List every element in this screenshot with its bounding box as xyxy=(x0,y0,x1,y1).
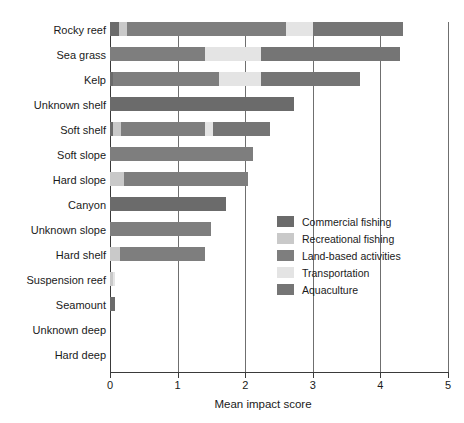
bar-segment xyxy=(219,72,261,86)
bar-segment xyxy=(113,122,121,136)
x-axis-tick xyxy=(380,372,381,378)
x-axis-line xyxy=(110,372,448,373)
bar-row xyxy=(110,172,448,186)
legend-swatch xyxy=(277,233,294,244)
x-axis-tick xyxy=(448,372,449,378)
y-axis-category-label: Unknown slope xyxy=(2,224,106,236)
y-axis-category-labels: Rocky reefSea grassKelpUnknown shelfSoft… xyxy=(0,22,106,372)
bar-segment xyxy=(213,122,270,136)
bar-segment xyxy=(313,22,403,36)
legend-swatch xyxy=(277,250,294,261)
y-axis-category-label: Hard shelf xyxy=(2,249,106,261)
bar-segment xyxy=(286,22,313,36)
y-axis-category-label: Soft shelf xyxy=(2,124,106,136)
legend-item: Recreational fishing xyxy=(277,230,401,247)
y-axis-category-label: Rocky reef xyxy=(2,24,106,36)
bar-segment xyxy=(127,22,286,36)
legend-label: Aquaculture xyxy=(302,284,358,296)
x-axis-tick xyxy=(178,372,179,378)
bar-segment xyxy=(121,122,206,136)
x-axis-tick xyxy=(110,372,111,378)
bar-segment xyxy=(110,22,119,36)
bar-row xyxy=(110,147,448,161)
legend-swatch xyxy=(277,216,294,227)
y-axis-category-label: Hard slope xyxy=(2,174,106,186)
bar-row xyxy=(110,97,448,111)
bar-segment xyxy=(110,222,211,236)
bar-segment xyxy=(110,247,120,261)
y-axis-category-label: Soft slope xyxy=(2,149,106,161)
y-axis-category-label: Suspension reef xyxy=(2,274,106,286)
x-axis-tick-label: 1 xyxy=(168,379,188,392)
bar-segment xyxy=(205,47,262,61)
bar-segment xyxy=(110,197,226,211)
x-axis-tick xyxy=(245,372,246,378)
legend-swatch xyxy=(277,267,294,278)
y-axis-category-label: Sea grass xyxy=(2,49,106,61)
x-axis-title: Mean impact score xyxy=(0,398,464,410)
bar-segment xyxy=(119,22,127,36)
legend: Commercial fishingRecreational fishingLa… xyxy=(277,213,401,298)
legend-label: Land-based activities xyxy=(302,250,401,262)
bars-container xyxy=(110,22,448,372)
y-axis-category-label: Unknown deep xyxy=(2,324,106,336)
bar-row xyxy=(110,22,448,36)
bar-row xyxy=(110,122,448,136)
bar-row xyxy=(110,47,448,61)
legend-item: Land-based activities xyxy=(277,247,401,264)
bar-segment xyxy=(110,47,205,61)
gridline xyxy=(448,22,449,372)
y-axis-category-label: Canyon xyxy=(2,199,106,211)
bar-segment xyxy=(110,97,294,111)
legend-item: Commercial fishing xyxy=(277,213,401,230)
legend-label: Commercial fishing xyxy=(302,216,391,228)
bar-segment xyxy=(205,122,213,136)
bar-segment xyxy=(120,247,205,261)
bar-segment xyxy=(113,72,218,86)
x-axis-tick-label: 5 xyxy=(438,379,458,392)
x-axis-tick-label: 2 xyxy=(235,379,255,392)
bar-segment xyxy=(110,297,115,311)
bar-segment xyxy=(261,47,400,61)
y-axis-category-label: Hard deep xyxy=(2,349,106,361)
bar-segment xyxy=(261,72,360,86)
legend-swatch xyxy=(277,284,294,295)
bar-row xyxy=(110,297,448,311)
legend-item: Transportation xyxy=(277,264,401,281)
bar-segment xyxy=(113,272,116,286)
bar-row xyxy=(110,347,448,361)
bar-row xyxy=(110,197,448,211)
legend-item: Aquaculture xyxy=(277,281,401,298)
bar-row xyxy=(110,322,448,336)
x-axis-tick-label: 0 xyxy=(100,379,120,392)
legend-label: Recreational fishing xyxy=(302,233,394,245)
y-axis-category-label: Seamount xyxy=(2,299,106,311)
x-axis-tick-label: 3 xyxy=(303,379,323,392)
bar-segment xyxy=(124,172,248,186)
y-axis-category-label: Kelp xyxy=(2,74,106,86)
x-axis-tick xyxy=(313,372,314,378)
bar-row xyxy=(110,72,448,86)
legend-label: Transportation xyxy=(302,267,369,279)
y-axis-category-label: Unknown shelf xyxy=(2,99,106,111)
stacked-bar-chart: 012345 Rocky reefSea grassKelpUnknown sh… xyxy=(0,0,464,423)
bar-segment xyxy=(110,147,253,161)
bar-segment xyxy=(110,172,124,186)
x-axis-tick-label: 4 xyxy=(370,379,390,392)
